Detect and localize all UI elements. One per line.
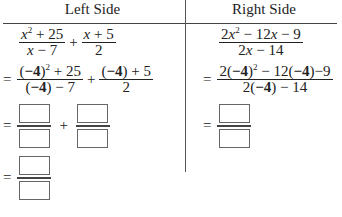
denominator-answer-box[interactable] xyxy=(77,129,108,148)
denominator-answer-box[interactable] xyxy=(19,129,50,148)
left-row3-answer-fraction2 xyxy=(76,104,110,148)
column-divider xyxy=(185,0,186,172)
numerator: x + 5 xyxy=(82,27,116,42)
numerator-answer-box[interactable] xyxy=(19,104,50,123)
right-side-header: Right Side xyxy=(186,1,342,18)
left-row3-expression: = + xyxy=(3,104,110,148)
left-row4-expression: = xyxy=(3,156,51,200)
fraction-bar xyxy=(217,125,251,127)
equals-sign: = xyxy=(3,71,11,88)
denominator: 2 xyxy=(120,80,132,95)
numerator: 2x2 − 12x − 9 xyxy=(219,27,303,42)
left-row2-expression: = (−4)2 + 25 (−4) − 7 + (−4) + 5 2 xyxy=(3,64,153,95)
plus-operator: + xyxy=(59,117,67,134)
left-side-header: Left Side xyxy=(0,1,185,18)
denominator: 2 xyxy=(93,43,105,58)
plus-operator: + xyxy=(87,71,95,88)
numerator: (−4)2 + 25 xyxy=(17,64,83,79)
left-row2-fraction2: (−4) + 5 2 xyxy=(99,64,153,95)
denominator: (−4) − 7 xyxy=(23,80,77,95)
denominator: 2x − 14 xyxy=(236,43,285,58)
fraction-bar xyxy=(76,125,110,127)
numerator: (−4) + 5 xyxy=(99,64,153,79)
right-row3-answer-fraction xyxy=(217,104,251,148)
left-row1-fraction1: x2 + 25 x − 7 xyxy=(19,27,65,58)
equals-sign: = xyxy=(3,117,11,134)
left-row1-fraction2: x + 5 2 xyxy=(82,27,116,58)
equals-sign: = xyxy=(3,169,11,186)
right-row3-expression: = xyxy=(203,104,251,148)
header-divider xyxy=(3,23,337,24)
numerator: 2(−4)2 − 12(−4)−9 xyxy=(217,64,332,79)
left-row3-answer-fraction1 xyxy=(17,104,51,148)
fraction-bar xyxy=(17,177,51,179)
left-row4-answer-fraction xyxy=(17,156,51,200)
right-row2-fraction: 2(−4)2 − 12(−4)−9 2(−4) − 14 xyxy=(217,64,332,95)
right-row1-fraction: 2x2 − 12x − 9 2x − 14 xyxy=(219,27,303,58)
numerator: x2 + 25 xyxy=(19,27,65,42)
numerator-answer-box[interactable] xyxy=(219,104,250,123)
right-row1-expression: 2x2 − 12x − 9 2x − 14 xyxy=(219,27,303,58)
numerator-answer-box[interactable] xyxy=(19,156,50,175)
equals-sign: = xyxy=(203,117,211,134)
denominator: 2(−4) − 14 xyxy=(241,80,310,95)
right-row2-expression: = 2(−4)2 − 12(−4)−9 2(−4) − 14 xyxy=(203,64,333,95)
left-row2-fraction1: (−4)2 + 25 (−4) − 7 xyxy=(17,64,83,95)
equals-sign: = xyxy=(203,71,211,88)
left-row1-expression: x2 + 25 x − 7 + x + 5 2 xyxy=(19,27,116,58)
denominator: x − 7 xyxy=(25,43,59,58)
fraction-bar xyxy=(17,125,51,127)
denominator-answer-box[interactable] xyxy=(19,181,50,200)
plus-operator: + xyxy=(69,34,77,51)
denominator-answer-box[interactable] xyxy=(219,129,250,148)
numerator-answer-box[interactable] xyxy=(77,104,108,123)
